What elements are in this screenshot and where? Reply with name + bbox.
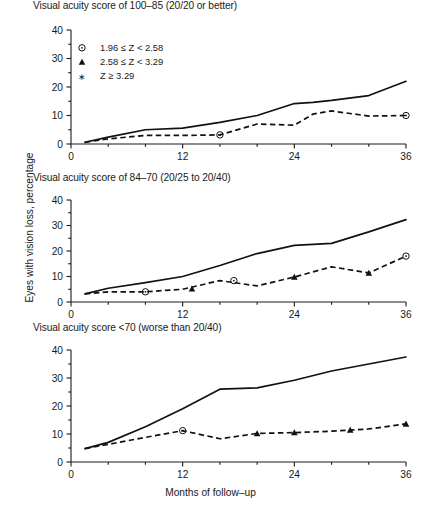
y-tick-label: 30 xyxy=(52,53,64,64)
x-axis-label: Months of follow–up xyxy=(0,487,421,498)
plot-area-2: 0102030400122436 xyxy=(0,172,421,327)
y-tick-label: 10 xyxy=(52,271,64,282)
y-tick-label: 0 xyxy=(57,139,63,150)
x-tick-label: 36 xyxy=(400,309,412,320)
chart-panel-2: Visual acuity score of 84–70 (20/25 to 2… xyxy=(0,172,421,327)
chart-panel-3: Visual acuity score <70 (worse than 20/4… xyxy=(0,322,421,487)
marker-circle-dot-center-icon xyxy=(182,430,184,432)
x-tick-label: 0 xyxy=(68,151,74,162)
data-line-dashed xyxy=(85,256,406,294)
data-line-solid xyxy=(85,220,406,294)
y-tick-label: 20 xyxy=(52,401,64,412)
y-tick-label: 20 xyxy=(52,246,64,257)
legend-label-2: Z ≥ 3.29 xyxy=(100,70,134,81)
x-tick-label: 36 xyxy=(400,469,412,480)
y-tick-label: 0 xyxy=(57,297,63,308)
figure-container: Eyes with vision loss, percentage Visual… xyxy=(0,0,421,511)
legend-label-1: 2.58 ≤ Z < 3.29 xyxy=(100,56,163,67)
y-tick-label: 0 xyxy=(57,457,63,468)
marker-circle-dot-center-icon xyxy=(405,255,407,257)
marker-circle-dot-center-icon xyxy=(233,280,235,282)
marker-circle-dot-center-icon xyxy=(81,47,83,49)
marker-circle-dot-center-icon xyxy=(219,134,221,136)
marker-star-icon: ∗ xyxy=(78,71,86,82)
data-line-dashed xyxy=(85,424,406,449)
x-tick-label: 24 xyxy=(289,309,301,320)
legend-label-0: 1.96 ≤ Z < 2.58 xyxy=(100,42,163,53)
x-tick-label: 24 xyxy=(289,469,301,480)
x-tick-label: 12 xyxy=(177,469,189,480)
y-tick-label: 10 xyxy=(52,429,64,440)
x-tick-label: 0 xyxy=(68,469,74,480)
y-tick-label: 30 xyxy=(52,220,64,231)
x-tick-label: 24 xyxy=(289,151,301,162)
x-tick-label: 36 xyxy=(400,151,412,162)
x-tick-label: 12 xyxy=(177,151,189,162)
x-tick-label: 12 xyxy=(177,309,189,320)
x-tick-label: 0 xyxy=(68,309,74,320)
chart-panel-1: Visual acuity score of 100–85 (20/20 or … xyxy=(0,0,421,175)
plot-area-1: 01020304001224361.96 ≤ Z < 2.582.58 ≤ Z … xyxy=(0,0,421,175)
y-tick-label: 20 xyxy=(52,82,64,93)
data-line-dashed xyxy=(85,111,406,142)
marker-circle-dot-center-icon xyxy=(145,291,147,293)
y-tick-label: 40 xyxy=(52,195,64,206)
marker-triangle-up-icon xyxy=(79,59,86,65)
data-line-solid xyxy=(85,81,406,142)
marker-circle-dot-center-icon xyxy=(405,115,407,117)
y-tick-label: 30 xyxy=(52,373,64,384)
y-tick-label: 40 xyxy=(52,345,64,356)
plot-area-3: 0102030400122436 xyxy=(0,322,421,487)
y-tick-label: 10 xyxy=(52,110,64,121)
y-tick-label: 40 xyxy=(52,25,64,36)
